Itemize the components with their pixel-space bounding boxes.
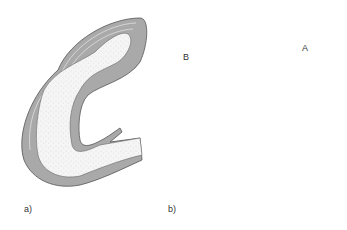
panel-label-b: b) [168,204,176,214]
callout-label-b: B [183,52,189,62]
panel-label-a: a) [24,204,32,214]
panel-a-drawing [22,18,147,186]
callout-label-a: A [302,43,308,53]
anatomical-cross-section-diagram [0,0,347,230]
